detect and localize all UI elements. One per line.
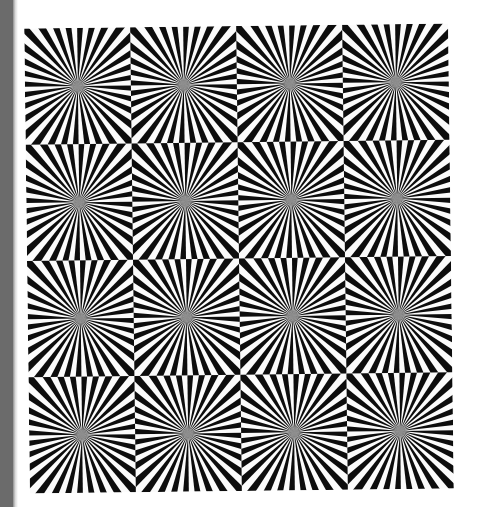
sunburst-pattern-svg: Sunburst tile optical illusion [24, 23, 454, 493]
sunburst-pattern: Sunburst tile optical illusion [24, 23, 454, 493]
left-gutter-falloff [13, 0, 18, 507]
left-gutter-bar [0, 0, 13, 507]
screenshot-canvas: Sunburst tile optical illusion [0, 0, 482, 507]
